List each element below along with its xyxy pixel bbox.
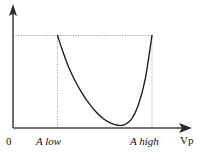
axis-label-origin: 0: [6, 136, 12, 147]
chart-figure: 0 A low A high Vp: [0, 0, 208, 160]
axis-title-vp: Vp: [180, 135, 193, 146]
chart-plot-area: [0, 0, 208, 160]
cost-curve-path: [57, 36, 152, 126]
axis-tick-label-a-low: A low: [36, 136, 61, 147]
axis-tick-label-a-high: A high: [130, 136, 159, 147]
